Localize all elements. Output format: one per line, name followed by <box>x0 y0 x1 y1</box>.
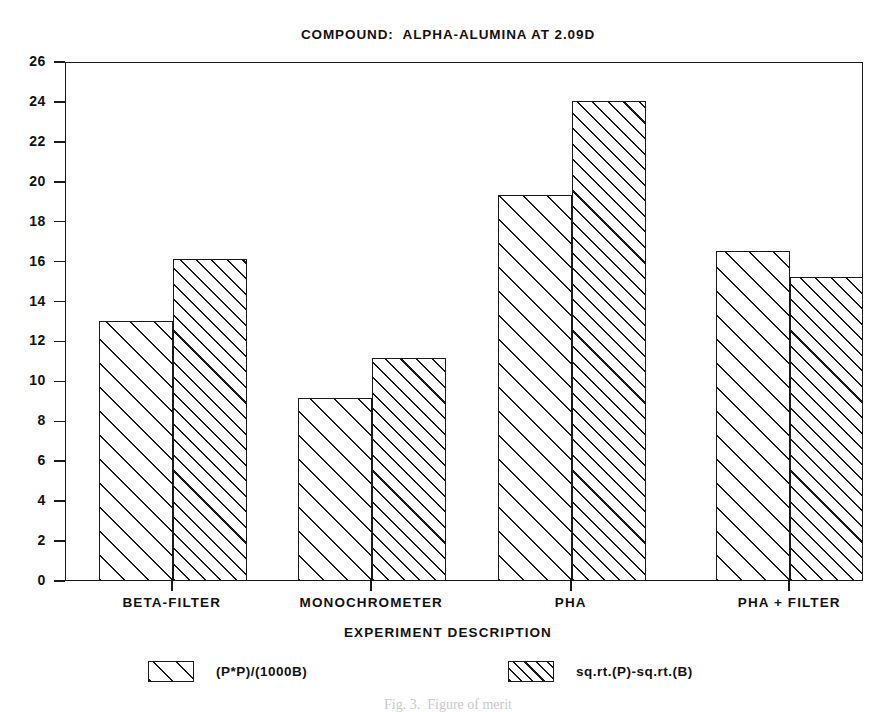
bar-2-group-1 <box>173 259 247 580</box>
y-axis-tick-label: 6 <box>38 452 46 468</box>
y-axis-tick-label: 0 <box>38 572 46 588</box>
bar-2-group-3 <box>572 101 646 580</box>
x-axis-title: EXPERIMENT DESCRIPTION <box>0 625 896 640</box>
y-axis-tick-label: 4 <box>38 492 46 508</box>
y-axis-tick-label: 18 <box>29 213 46 229</box>
y-axis-tick-mark <box>54 61 65 63</box>
y-axis-tick-mark <box>54 141 65 143</box>
legend-entry-2: sq.rt.(P)-sq.rt.(B) <box>508 659 693 683</box>
legend-entry-1: (P*P)/(1000B) <box>148 659 307 683</box>
x-axis-tick-mark <box>570 581 572 591</box>
y-axis-tick-mark <box>54 101 65 103</box>
y-axis-tick-mark <box>54 341 65 343</box>
y-axis-tick-label: 20 <box>29 173 46 189</box>
x-axis-tick-mark <box>370 581 372 591</box>
y-axis-tick-label: 22 <box>29 133 46 149</box>
y-axis-tick-label: 16 <box>29 253 46 269</box>
page-caption: Fig. 3. Figure of merit <box>0 697 896 712</box>
y-axis-tick-label: 14 <box>29 293 46 309</box>
y-axis-tick-mark <box>54 500 65 502</box>
y-axis-tick-mark <box>54 261 65 263</box>
x-axis-category-label: PHA + FILTER <box>659 595 896 610</box>
plot-area <box>65 62 863 581</box>
y-axis-tick-mark <box>54 181 65 183</box>
x-axis-tick-mark <box>171 581 173 591</box>
bar-2-group-4 <box>790 277 862 580</box>
bar-1-group-4 <box>716 251 790 580</box>
y-axis-tick-label: 24 <box>29 93 46 109</box>
y-axis-tick-mark <box>54 221 65 223</box>
legend-swatch-diagonal-hatch-wide <box>148 661 194 682</box>
legend-label: (P*P)/(1000B) <box>216 664 307 679</box>
y-axis-tick-mark <box>54 421 65 423</box>
bar-1-group-2 <box>298 398 372 580</box>
bar-1-group-3 <box>498 195 572 580</box>
legend-swatch-diagonal-hatch-dense <box>508 661 554 682</box>
bar-1-group-1 <box>99 321 173 581</box>
chart-title: COMPOUND: ALPHA-ALUMINA AT 2.09D <box>0 27 896 42</box>
y-axis-tick-label: 8 <box>38 412 46 428</box>
y-axis-tick-label: 10 <box>29 372 46 388</box>
y-axis-tick-mark <box>54 301 65 303</box>
y-axis-tick-mark <box>54 381 65 383</box>
bar-chart-figure: COMPOUND: ALPHA-ALUMINA AT 2.09D 0246810… <box>0 0 896 712</box>
bars-layer <box>66 63 862 580</box>
bar-2-group-2 <box>372 358 446 580</box>
legend-label: sq.rt.(P)-sq.rt.(B) <box>576 664 693 679</box>
y-axis-tick-label: 12 <box>29 332 46 348</box>
y-axis-tick-label: 26 <box>29 53 46 69</box>
y-axis-tick-label: 2 <box>38 532 46 548</box>
x-axis-tick-mark <box>788 581 790 591</box>
y-axis-tick-mark <box>54 460 65 462</box>
y-axis-tick-mark <box>54 580 65 582</box>
y-axis-tick-mark <box>54 540 65 542</box>
